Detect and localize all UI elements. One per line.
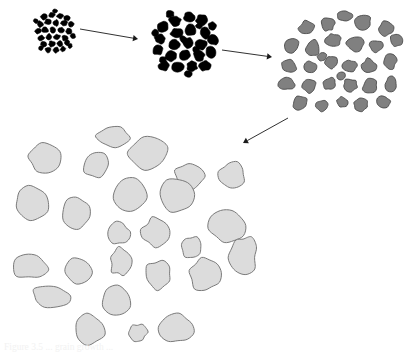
grain-shape <box>172 62 184 72</box>
grain-shape <box>39 46 44 51</box>
grain-shape <box>206 46 216 58</box>
grain-shape <box>152 29 159 36</box>
grain-shape <box>321 18 335 31</box>
grain-shape <box>181 237 200 258</box>
grain-shape <box>166 11 174 18</box>
grain-shape <box>184 71 192 77</box>
grain-shape <box>64 15 70 20</box>
grain-shape <box>50 27 55 33</box>
grain-shape <box>153 45 163 55</box>
grain-shape <box>355 15 371 30</box>
grain-growth-figure: Figure 3.5 ... grain growth ... <box>0 0 409 354</box>
grain-shape <box>70 33 75 38</box>
grain-shape <box>159 57 166 63</box>
grain-shape <box>193 47 200 54</box>
grain-shape <box>337 72 345 80</box>
grain-shape <box>66 28 72 34</box>
grain-shape <box>390 34 402 46</box>
grain-shape <box>342 60 357 72</box>
grain-shape <box>53 9 58 13</box>
figure-canvas <box>0 0 409 354</box>
